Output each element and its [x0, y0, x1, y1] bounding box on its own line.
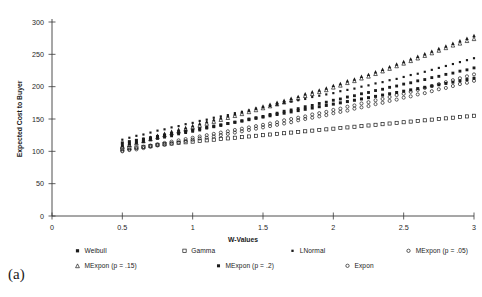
legend-item[interactable]: Gamma [181, 247, 215, 254]
data-point [409, 81, 412, 84]
x-axis-tick-label: 3 [472, 223, 476, 232]
data-point [247, 135, 250, 138]
data-point [339, 110, 342, 113]
y-axis-tick-label: 200 [32, 82, 44, 91]
data-point [374, 82, 376, 84]
data-point [240, 112, 244, 116]
data-point [423, 119, 426, 122]
data-point [156, 137, 159, 140]
legend-item-label: Gamma [191, 247, 215, 254]
data-point [395, 98, 398, 101]
data-point [212, 138, 215, 141]
legend-item[interactable]: MExpon (p = .05) [405, 247, 468, 254]
data-point [318, 128, 321, 131]
data-point [423, 54, 427, 58]
data-point [283, 119, 286, 122]
data-point [339, 107, 342, 110]
data-point [388, 122, 391, 125]
data-point [121, 139, 123, 141]
series-mexpon-p-1 [121, 34, 476, 147]
data-point [374, 103, 377, 106]
data-point [395, 64, 399, 68]
data-point [451, 84, 454, 87]
data-point [325, 128, 328, 131]
data-point [191, 130, 194, 133]
y-axis-tick-label: 100 [32, 147, 44, 156]
x-axis-tick-label: 0.5 [117, 223, 127, 232]
data-point [402, 83, 405, 86]
data-point [417, 73, 419, 75]
data-point [297, 107, 300, 110]
data-point [311, 113, 314, 116]
data-point [430, 118, 433, 121]
data-point [388, 92, 391, 95]
data-point [170, 126, 172, 128]
data-point [339, 84, 343, 88]
x-axis-title: W-Values [228, 236, 258, 243]
data-point [423, 92, 426, 95]
data-point [226, 116, 230, 120]
data-point [262, 115, 265, 118]
data-point [191, 138, 194, 141]
data-point [396, 78, 398, 80]
legend-marker-open-circle-icon [405, 247, 412, 254]
data-point [205, 127, 208, 130]
data-point [318, 95, 320, 97]
legend-row: WeibullGammaLNormalMExpon (p = .05)MExpo… [0, 243, 482, 258]
data-point [410, 74, 412, 76]
data-point [332, 127, 335, 130]
data-point [459, 61, 461, 63]
data-point [402, 62, 406, 66]
data-point [304, 130, 307, 133]
legend-item-label: MExpon (p = .15) [85, 262, 137, 269]
data-point [353, 125, 356, 128]
data-point [389, 79, 391, 81]
data-point [424, 71, 426, 73]
data-point [275, 132, 278, 135]
data-point [353, 99, 356, 102]
legend-marker-filled-square-b-icon [215, 262, 222, 269]
legend-item-label: Weibull [85, 247, 107, 254]
data-point [290, 131, 293, 134]
data-point [346, 109, 349, 112]
legend-item[interactable]: Expon [344, 262, 374, 269]
legend-item[interactable]: MExpon (p = .15) [74, 262, 137, 269]
legend-item-label: MExpon (p = .05) [416, 247, 468, 254]
data-point [325, 93, 327, 95]
series-mexpon-p-2 [121, 66, 476, 146]
legend-marker-small-filled-square-icon [289, 247, 296, 254]
legend-item[interactable]: LNormal [289, 247, 325, 254]
data-point [233, 114, 237, 118]
data-point [339, 98, 342, 101]
data-point [332, 99, 335, 102]
data-point [318, 115, 321, 118]
data-point [261, 134, 264, 137]
data-point [149, 132, 151, 134]
data-point [465, 115, 468, 118]
data-point [311, 107, 314, 110]
data-point [437, 88, 440, 91]
data-point [325, 104, 328, 107]
data-point [170, 142, 173, 145]
data-point [452, 63, 454, 65]
series-lnormal [121, 57, 475, 141]
data-point [311, 129, 314, 132]
data-point [381, 101, 384, 104]
y-axis-tick-label: 250 [32, 50, 44, 59]
data-point [283, 132, 286, 135]
data-point [360, 92, 363, 95]
data-point [142, 140, 145, 143]
legend-item[interactable]: MExpon (p = .2) [215, 262, 274, 269]
data-point [367, 75, 371, 79]
data-point [135, 142, 138, 145]
y-axis-tick-label: 300 [32, 18, 44, 27]
data-point [374, 72, 378, 76]
legend-item[interactable]: Weibull [74, 247, 107, 254]
data-point [353, 79, 357, 83]
x-axis-tick-label: 0 [50, 223, 54, 232]
data-point [325, 101, 328, 104]
data-point [403, 76, 405, 78]
x-axis-tick-label: 1.5 [258, 223, 268, 232]
data-point [332, 86, 336, 90]
data-point [290, 121, 293, 124]
